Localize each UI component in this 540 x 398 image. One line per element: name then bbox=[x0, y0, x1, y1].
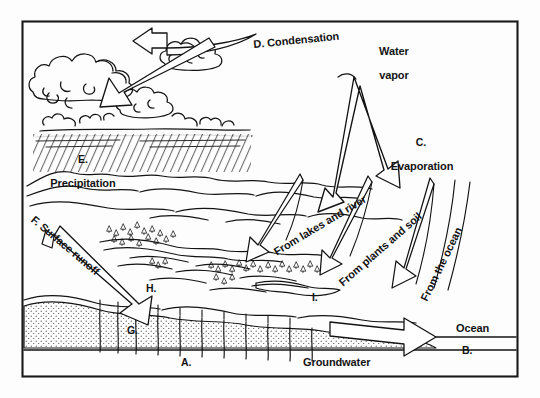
label-name-precipitation: Precipitation bbox=[50, 177, 115, 189]
water-vapor-line-2: vapor bbox=[379, 69, 408, 81]
label-key-c: C. bbox=[416, 136, 426, 148]
label-key-i: I. bbox=[312, 292, 318, 303]
label-key-e: E. bbox=[78, 153, 88, 165]
label-groundwater: Groundwater bbox=[303, 357, 370, 369]
water-vapor-line-1: Water bbox=[379, 45, 409, 57]
label-key-g: G. bbox=[127, 325, 138, 336]
water-cycle-figure: D. Condensation Water vapor C. Evaporati… bbox=[0, 0, 540, 398]
label-key-h: H. bbox=[146, 283, 156, 294]
label-ocean: Ocean bbox=[456, 323, 489, 335]
label-name-evaporation: Evaporation bbox=[391, 160, 453, 172]
label-water-vapor: Water vapor bbox=[361, 34, 415, 93]
label-e-precipitation: E. Precipitation bbox=[34, 142, 120, 201]
label-key-b: B. bbox=[462, 345, 472, 356]
label-c-evaporation: C. Evaporation bbox=[379, 125, 451, 184]
label-key-a: A. bbox=[181, 357, 191, 368]
